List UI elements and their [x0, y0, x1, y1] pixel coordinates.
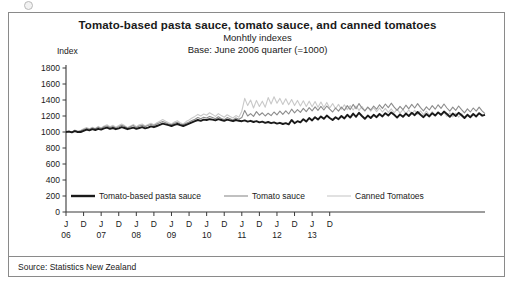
series-line-1	[66, 112, 485, 133]
legend-label-2: Tomato sauce	[252, 191, 305, 201]
line-chart-svg: 020040060080010001200140016001800J06DJ07…	[9, 60, 506, 250]
x-axis-tick-label: D	[256, 219, 262, 229]
chart-frame: Tomato-based pasta sauce, tomato sauce, …	[8, 12, 505, 277]
scan-artifact-dot	[24, 1, 33, 10]
y-axis-tick-label: 1200	[41, 111, 60, 121]
y-axis-tick-label: 1400	[41, 95, 60, 105]
y-axis-tick-label: 600	[46, 159, 60, 169]
x-axis-tick-label: D	[291, 219, 297, 229]
y-axis-tick-label: 200	[46, 191, 60, 201]
x-axis-tick-label: D	[221, 219, 227, 229]
x-axis-tick-label: D	[81, 219, 87, 229]
x-axis-tick-label: J	[275, 219, 279, 229]
x-axis-tick-label: D	[151, 219, 157, 229]
chart-base-note: Base: June 2006 quarter (=1000)	[9, 44, 506, 56]
x-axis-tick-label: J	[205, 219, 209, 229]
x-axis-year-label: 09	[167, 230, 177, 240]
y-axis-title: Index	[57, 46, 78, 56]
y-axis-tick-label: 400	[46, 175, 60, 185]
source-divider	[9, 256, 504, 257]
x-axis-tick-label: J	[310, 219, 314, 229]
x-axis-year-label: 10	[202, 230, 212, 240]
x-axis-year-label: 11	[237, 230, 246, 240]
y-axis-tick-label: 800	[46, 143, 60, 153]
x-axis-tick-label: J	[99, 219, 103, 229]
x-axis-year-label: 13	[307, 230, 317, 240]
y-axis-tick-label: 1000	[41, 127, 60, 137]
x-axis-year-label: 12	[272, 230, 282, 240]
x-axis-year-label: 07	[96, 230, 106, 240]
x-axis-tick-label: D	[116, 219, 122, 229]
legend-label-3: Canned Tomatoes	[355, 191, 424, 201]
x-axis-tick-label: D	[327, 219, 333, 229]
y-axis-tick-label: 0	[55, 207, 60, 217]
y-axis-tick-label: 1600	[41, 79, 60, 89]
legend-label-1: Tomato-based pasta sauce	[99, 191, 201, 201]
x-axis-year-label: 08	[132, 230, 142, 240]
plot-area: 020040060080010001200140016001800J06DJ07…	[9, 60, 506, 250]
title-block: Tomato-based pasta sauce, tomato sauce, …	[9, 18, 506, 56]
series-line-2	[66, 103, 485, 132]
x-axis-year-label: 06	[61, 230, 71, 240]
y-axis-tick-label: 1800	[41, 63, 60, 73]
x-axis-tick-label: D	[186, 219, 192, 229]
series-line-3	[66, 97, 485, 132]
chart-subtitle: Monhtly indexes	[9, 32, 506, 44]
x-axis-tick-label: J	[64, 219, 68, 229]
x-axis-tick-label: J	[240, 219, 244, 229]
chart-title: Tomato-based pasta sauce, tomato sauce, …	[9, 18, 506, 32]
source-note: Source: Statistics New Zealand	[18, 262, 136, 272]
x-axis-tick-label: J	[169, 219, 173, 229]
x-axis-tick-label: J	[134, 219, 138, 229]
chart-screenshot: Tomato-based pasta sauce, tomato sauce, …	[0, 0, 514, 291]
